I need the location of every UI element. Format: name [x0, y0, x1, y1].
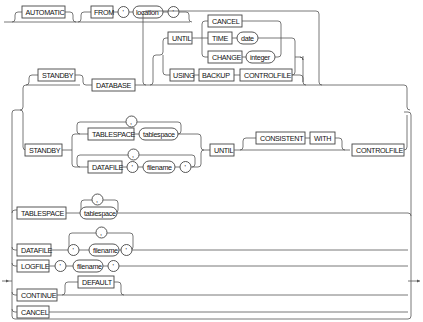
standby-tablespace-label: TABLESPACE — [92, 130, 136, 139]
railroad-diagram: AUTOMATIC FROM ' location ' STANDBY DATA… — [0, 0, 423, 322]
tablespace-label: TABLESPACE — [21, 209, 65, 218]
options-branch: TABLESPACE , tablespace DATAFILE , ' fil… — [12, 194, 411, 318]
database-standby-label: STANDBY — [42, 71, 74, 80]
backup-label: BACKUP — [202, 71, 230, 80]
logfile-label: LOGFILE — [21, 262, 50, 271]
standby-tablespace-separator-label: , — [130, 117, 132, 126]
row-automatic-from: AUTOMATIC FROM ' location ' — [4, 6, 192, 22]
standby-label: STANDBY — [29, 146, 61, 155]
standby-until-label: UNTIL — [214, 146, 234, 155]
continue-label: CONTINUE — [21, 291, 57, 300]
tablespace-var-label: tablespace — [84, 209, 116, 218]
tablespace-separator-label: , — [96, 195, 98, 204]
from-label: FROM — [94, 8, 114, 17]
using-label: USING — [173, 71, 195, 80]
exit-arrow-icon — [417, 280, 420, 283]
standby-tablespace-var-label: tablespace — [143, 130, 175, 139]
time-label: TIME — [212, 34, 228, 43]
location-label: location — [136, 8, 159, 17]
database-label: DATABASE — [96, 81, 131, 90]
datafile-filename-label: filename — [93, 246, 118, 255]
backup-controlfile-label: CONTROLFILE — [244, 71, 292, 80]
entry-arrow-icon — [6, 280, 9, 283]
standby-branch: STANDBY , TABLESPACE tablespace , DATAFI… — [20, 110, 407, 173]
automatic-label: AUTOMATIC — [26, 8, 65, 17]
database-branch: STANDBY DATABASE UNTIL CANCEL TIME date … — [20, 11, 410, 110]
logfile-filename-label: filename — [77, 262, 102, 271]
standby-filename-label: filename — [147, 163, 172, 172]
change-label: CHANGE — [212, 53, 241, 62]
until-label: UNTIL — [172, 34, 192, 43]
datafile-label: DATAFILE — [21, 246, 52, 255]
date-label: date — [241, 34, 254, 43]
with-label: WITH — [314, 134, 331, 143]
cancel-label: CANCEL — [21, 308, 49, 317]
datafile-separator-label: , — [100, 228, 102, 237]
standby-datafile-separator-label: , — [132, 150, 134, 159]
until-cancel-label: CANCEL — [212, 17, 240, 26]
consistent-label: CONSISTENT — [260, 134, 304, 143]
standby-controlfile-label: CONTROLFILE — [356, 146, 404, 155]
standby-datafile-label: DATAFILE — [92, 163, 123, 172]
default-label: DEFAULT — [82, 278, 113, 287]
integer-label: integer — [250, 53, 271, 62]
